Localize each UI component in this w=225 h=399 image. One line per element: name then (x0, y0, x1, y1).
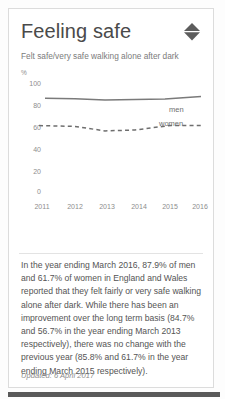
x-tick-2013: 2013 (99, 203, 115, 210)
page-title: Feeling safe (21, 19, 201, 43)
statistic-card: Feeling safe Felt safe/very safe walking… (8, 8, 214, 388)
chart-plot-area: 100 80 60 40 20 0 men women 2011 2012 20… (9, 77, 213, 209)
x-tick-2015: 2015 (162, 203, 178, 210)
series-line-men (45, 96, 201, 100)
commentary-text: In the year ending March 2016, 87.9% of … (21, 259, 205, 378)
updated-timestamp: Updated: 6 April 2017 (21, 371, 94, 380)
card-header: Feeling safe Felt safe/very safe walking… (9, 9, 213, 63)
x-tick-2011: 2011 (34, 203, 49, 210)
series-label-women: women (159, 119, 183, 128)
series-label-men: men (169, 105, 184, 114)
bottom-scrollbar[interactable] (8, 392, 220, 397)
card-subtitle: Felt safe/very safe walking alone after … (21, 50, 191, 63)
line-chart: % 100 80 60 40 20 0 men women 2011 (9, 69, 213, 217)
x-tick-2012: 2012 (67, 203, 83, 210)
section-divider (19, 253, 203, 254)
diamond-sort-icon[interactable] (181, 21, 203, 43)
x-tick-2014: 2014 (131, 203, 147, 210)
x-tick-2016: 2016 (192, 203, 208, 210)
y-axis-unit-label: % (21, 69, 27, 76)
page-root: Feeling safe Felt safe/very safe walking… (0, 0, 225, 399)
